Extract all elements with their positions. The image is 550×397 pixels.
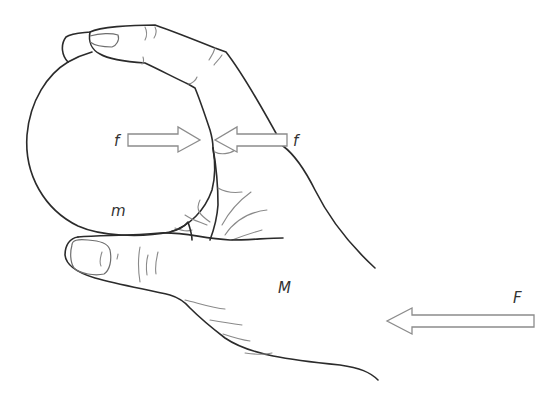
index-finger-underside xyxy=(89,32,213,148)
knuckle-crease xyxy=(209,48,215,60)
left-arrow-icon xyxy=(387,308,534,334)
friction-label-left: f xyxy=(114,132,122,150)
fingertip-back xyxy=(68,52,92,62)
friction-arrow-left xyxy=(128,127,200,152)
palm-crease xyxy=(215,150,235,154)
friction-arrow-right xyxy=(215,127,287,152)
palm-crease xyxy=(225,210,267,235)
knuckle-crease xyxy=(154,27,156,38)
hand xyxy=(62,25,378,380)
applied-force-label: F xyxy=(513,289,522,307)
right-arrow-icon xyxy=(128,127,200,152)
thumb-crease xyxy=(117,254,118,259)
palm-crease xyxy=(218,188,242,192)
wrist-crease xyxy=(185,300,225,309)
knuckle-crease xyxy=(142,57,143,64)
ball-mass-label: m xyxy=(111,202,126,220)
back-of-hand-outline xyxy=(283,146,375,268)
palm-crease xyxy=(222,192,251,225)
knuckle-crease xyxy=(145,27,147,40)
knuckle-crease xyxy=(188,77,197,84)
thumb-nail xyxy=(71,240,111,275)
index-finger-outline xyxy=(62,25,283,146)
wrist-crease xyxy=(210,320,242,325)
finger-nail xyxy=(90,34,119,47)
friction-label-right: f xyxy=(293,132,301,150)
applied-force-arrow xyxy=(387,308,534,334)
hand-ball-force-diagram: f f m M F xyxy=(0,0,550,397)
thumb-crease xyxy=(146,255,148,275)
thumb-crease xyxy=(139,247,141,282)
hand-mass-label: M xyxy=(278,279,291,297)
thumb-crease xyxy=(156,252,158,274)
knuckle-crease xyxy=(214,55,222,65)
thumb-crease xyxy=(100,252,102,266)
left-arrow-icon xyxy=(215,127,287,152)
